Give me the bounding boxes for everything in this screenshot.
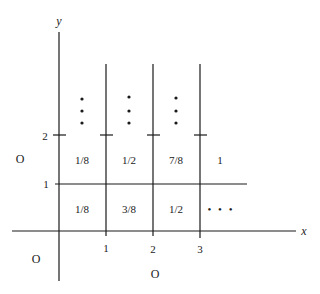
x-tick-1: 1 bbox=[103, 243, 109, 254]
x-tick-2: 2 bbox=[150, 244, 156, 255]
cell-r1-c1: 1/8 bbox=[75, 204, 89, 215]
region-label-left: O bbox=[16, 153, 25, 165]
cell-r2-c1: 1/8 bbox=[75, 155, 89, 166]
cell-r1-c2: 3/8 bbox=[122, 204, 136, 215]
y-axis-label: y bbox=[56, 15, 61, 27]
cell-r2-c4: 1 bbox=[217, 155, 223, 166]
cell-r2-c3: 7/8 bbox=[169, 155, 183, 166]
vertical-dots bbox=[80, 95, 177, 124]
region-label-bottom-left: O bbox=[32, 253, 41, 265]
grid-lines bbox=[0, 0, 320, 294]
y-tick-1: 1 bbox=[43, 179, 49, 190]
x-tick-3: 3 bbox=[197, 244, 203, 255]
horizontal-dots: • • • bbox=[207, 204, 234, 215]
region-label-bottom: O bbox=[151, 268, 160, 280]
cell-r1-c3: 1/2 bbox=[169, 204, 183, 215]
x-axis-label: x bbox=[301, 225, 306, 237]
y-tick-2: 2 bbox=[42, 131, 48, 142]
diagram-canvas: y x 2 1 1 2 3 1/8 1/2 7/8 1 1/8 3/8 1/2 … bbox=[0, 0, 320, 294]
cell-r2-c2: 1/2 bbox=[122, 155, 136, 166]
